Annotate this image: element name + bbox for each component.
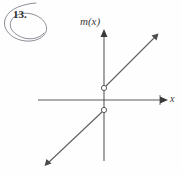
graph-canvas	[0, 0, 182, 175]
upper-branch-ray	[106, 34, 159, 87]
x-axis-arrowhead	[160, 97, 168, 104]
lower-branch-ray	[45, 112, 103, 166]
figure-container: 13. m(x) x	[0, 0, 182, 175]
open-circle-endpoint-upper	[101, 85, 106, 90]
handdrawn-circle-annotation	[4, 3, 46, 41]
y-axis-arrowhead	[101, 29, 108, 37]
open-circle-endpoint-lower	[101, 107, 106, 112]
x-axis	[38, 95, 168, 105]
y-axis	[101, 29, 108, 161]
